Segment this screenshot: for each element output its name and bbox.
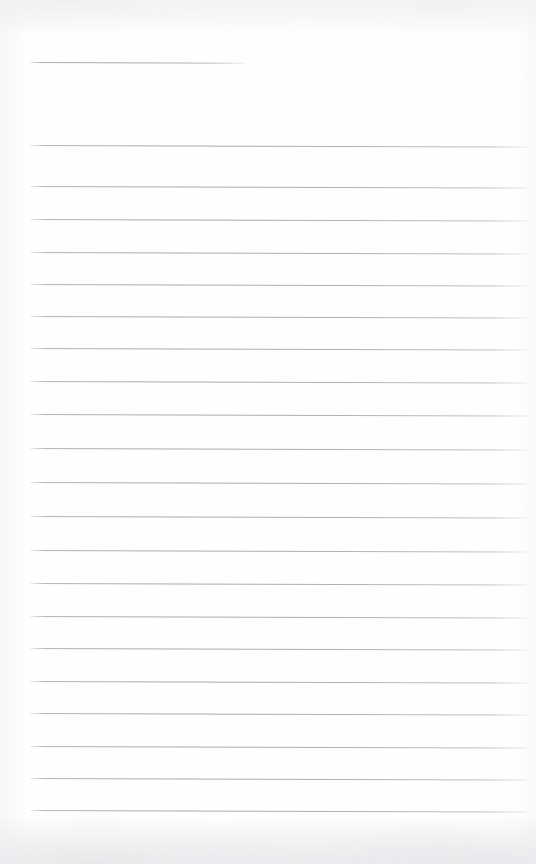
rule-line bbox=[30, 778, 527, 781]
rule-line bbox=[30, 145, 527, 148]
rule-line bbox=[30, 186, 527, 189]
rule-line bbox=[30, 284, 527, 287]
rule-line bbox=[30, 219, 527, 222]
rule-line bbox=[30, 482, 527, 485]
rule-line bbox=[30, 648, 527, 651]
rule-line bbox=[30, 252, 527, 255]
rule-line bbox=[30, 516, 527, 519]
ruled-lines-layer bbox=[0, 0, 536, 864]
rule-line bbox=[30, 746, 527, 749]
rule-line-partial bbox=[30, 62, 245, 64]
rule-line bbox=[30, 810, 527, 813]
rule-line bbox=[30, 713, 527, 716]
rule-line bbox=[30, 448, 527, 451]
rule-line bbox=[30, 681, 527, 684]
rule-line bbox=[30, 381, 527, 384]
rule-line bbox=[30, 616, 527, 619]
rule-line bbox=[30, 550, 527, 553]
rule-line bbox=[30, 414, 527, 417]
rule-line bbox=[30, 583, 527, 586]
paper-page bbox=[0, 0, 536, 864]
rule-line bbox=[30, 348, 527, 351]
rule-line bbox=[30, 316, 527, 319]
